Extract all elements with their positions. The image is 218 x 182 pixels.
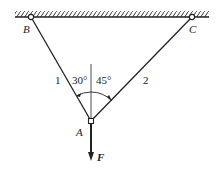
label-angle-30: 30° xyxy=(72,74,87,86)
label-force-F: F xyxy=(96,151,105,163)
member-2 xyxy=(91,17,192,121)
force-arrow xyxy=(88,124,94,161)
truss-diagram: B C A 1 2 30° 45° F xyxy=(0,0,218,182)
label-B: B xyxy=(23,23,30,35)
member-1 xyxy=(31,17,91,121)
label-member-1: 1 xyxy=(55,74,61,86)
fixed-ceiling xyxy=(15,11,209,17)
label-angle-45: 45° xyxy=(96,74,111,86)
pin-C xyxy=(189,14,194,19)
pin-B xyxy=(28,14,33,19)
joint-A xyxy=(89,119,94,124)
arc-arrowhead-right xyxy=(107,95,112,101)
label-C: C xyxy=(189,23,197,35)
label-member-2: 2 xyxy=(143,74,149,86)
label-A: A xyxy=(75,126,83,138)
